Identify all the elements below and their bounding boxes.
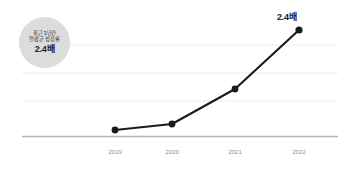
data-label-2022: 2.4배 — [277, 10, 297, 23]
growth-rate-badge: 최근 3년간 연평균 성장률 2.4배 — [19, 17, 70, 68]
gridlines — [22, 45, 338, 101]
data-point-2019[interactable] — [112, 127, 119, 134]
data-point-2021[interactable] — [232, 86, 239, 93]
x-tick-label-2019: 2019 — [108, 149, 122, 155]
data-point-2020[interactable] — [169, 121, 176, 128]
growth-line-chart: 최근 3년간 연평균 성장률 2.4배 2.4배 2019 2020 2021 … — [0, 0, 342, 173]
badge-value: 2.4배 — [35, 44, 55, 55]
data-point-markers — [112, 26, 303, 133]
data-point-2022[interactable] — [295, 26, 302, 33]
x-tick-label-2021: 2021 — [228, 149, 242, 155]
x-tick-label-2020: 2020 — [165, 149, 179, 155]
x-tick-label-2022: 2022 — [292, 149, 306, 155]
badge-line-2: 연평균 성장률 — [29, 36, 59, 42]
